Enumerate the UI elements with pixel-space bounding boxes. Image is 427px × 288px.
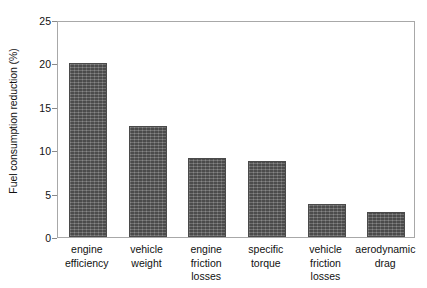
bar-engine-friction-losses — [188, 158, 226, 237]
x-tick-label-line: specific — [236, 243, 296, 257]
y-tick-label-15: 15 — [39, 102, 51, 114]
x-tick-label-line: friction — [176, 257, 236, 271]
bar-chart-figure: Fuel consumption reduction (%) 051015202… — [0, 0, 427, 288]
plot-area — [57, 21, 415, 238]
bar-specific-torque — [248, 161, 286, 237]
y-tick-label-0: 0 — [45, 232, 51, 244]
y-tick-mark-0 — [52, 238, 57, 239]
x-tick-label-aerodynamic-drag: aerodynamicdrag — [355, 243, 415, 270]
bars-layer — [58, 22, 414, 237]
y-tick-label-25: 25 — [39, 15, 51, 27]
x-tick-label-line: weight — [117, 257, 177, 271]
x-tick-label-line: losses — [176, 270, 236, 284]
bar-vehicle-friction-losses — [308, 204, 346, 237]
y-tick-label-5: 5 — [45, 189, 51, 201]
y-axis-tick-labels: 0510152025 — [22, 0, 51, 288]
x-tick-label-line: engine — [176, 243, 236, 257]
x-tick-label-line: vehicle — [117, 243, 177, 257]
x-tick-label-line: losses — [296, 270, 356, 284]
y-axis-title: Fuel consumption reduction (%) — [4, 2, 22, 240]
x-tick-label-line: friction — [296, 257, 356, 271]
y-tick-label-10: 10 — [39, 145, 51, 157]
x-axis-tick-labels: engineefficiencyvehicleweightenginefrict… — [57, 243, 415, 288]
x-tick-label-engine-efficiency: engineefficiency — [57, 243, 117, 270]
x-tick-label-specific-torque: specifictorque — [236, 243, 296, 270]
x-tick-label-line: efficiency — [57, 257, 117, 271]
bar-vehicle-weight — [129, 126, 167, 237]
x-tick-label-engine-friction-losses: enginefrictionlosses — [176, 243, 236, 284]
x-tick-label-line: engine — [57, 243, 117, 257]
x-tick-label-vehicle-weight: vehicleweight — [117, 243, 177, 270]
x-tick-label-line: aerodynamic — [355, 243, 415, 257]
bar-aerodynamic-drag — [367, 212, 405, 237]
x-tick-label-vehicle-friction-losses: vehiclefrictionlosses — [296, 243, 356, 284]
y-tick-label-20: 20 — [39, 58, 51, 70]
bar-engine-efficiency — [69, 63, 107, 237]
x-tick-label-line: vehicle — [296, 243, 356, 257]
x-tick-label-line: torque — [236, 257, 296, 271]
x-tick-label-line: drag — [355, 257, 415, 271]
